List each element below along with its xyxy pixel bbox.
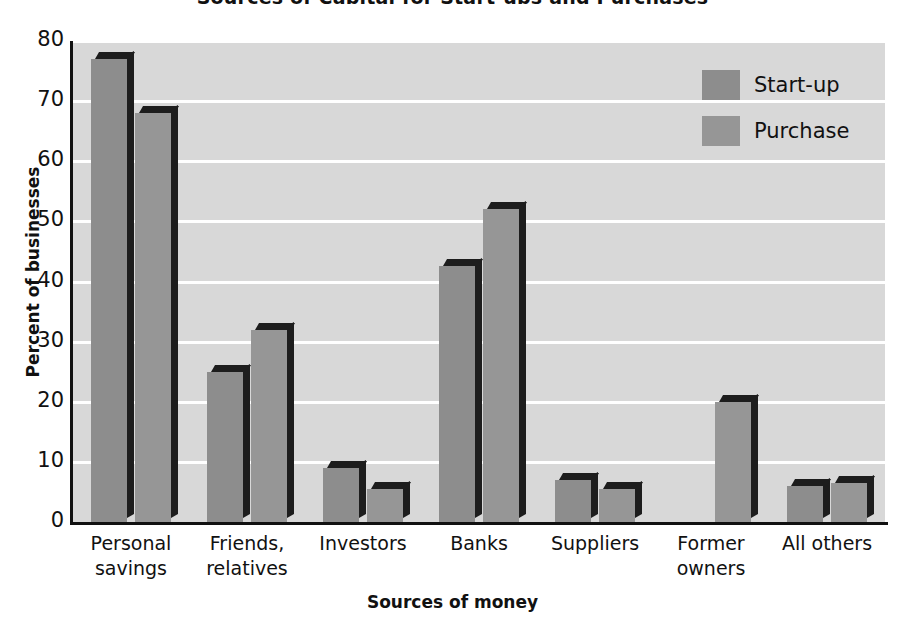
y-tick-label: 60 [10, 149, 64, 170]
y-tick-label: 80 [10, 29, 64, 50]
legend-swatch-startup [702, 70, 740, 100]
legend-item-purchase: Purchase [702, 108, 892, 154]
y-tick-label: 50 [10, 209, 64, 230]
chart-figure: Sources of Capital for Start-ups and Pur… [0, 0, 905, 634]
chart-legend: Start-upPurchase [702, 62, 892, 154]
y-tick-label: 10 [10, 450, 64, 471]
x-axis-title: Sources of money [0, 592, 905, 612]
x-tick-label: All others [737, 531, 905, 556]
y-tick-label: 0 [10, 510, 64, 531]
y-tick-label: 30 [10, 330, 64, 351]
x-tick-label-line: All others [737, 531, 905, 556]
legend-label: Purchase [754, 119, 849, 143]
legend-item-startup: Start-up [702, 62, 892, 108]
y-tick-label: 70 [10, 89, 64, 110]
legend-swatch-purchase [702, 116, 740, 146]
y-tick-label: 40 [10, 270, 64, 291]
x-tick-label-line: relatives [157, 556, 337, 581]
y-tick-label: 20 [10, 390, 64, 411]
legend-label: Start-up [754, 73, 840, 97]
x-tick-label-line: owners [621, 556, 801, 581]
x-axis-tick-labels: PersonalsavingsFriends,relativesInvestor… [0, 531, 905, 593]
